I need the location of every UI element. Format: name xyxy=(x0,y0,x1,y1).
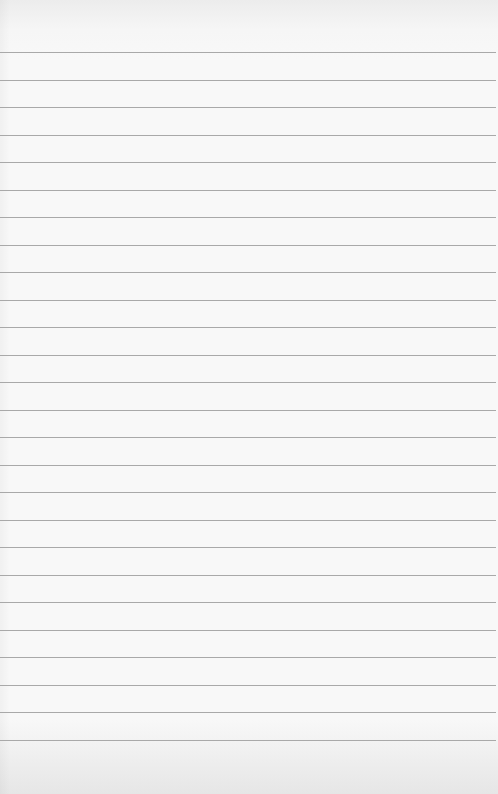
ruled-line xyxy=(0,602,496,603)
ruled-line xyxy=(0,355,496,356)
ruled-line xyxy=(0,300,496,301)
ruled-line xyxy=(0,107,496,108)
ruled-line xyxy=(0,52,496,53)
ruled-line xyxy=(0,492,496,493)
ruled-line xyxy=(0,162,496,163)
ruled-line xyxy=(0,217,496,218)
ruled-line xyxy=(0,437,496,438)
lined-paper-sheet xyxy=(0,0,498,794)
ruled-line xyxy=(0,382,496,383)
ruled-line xyxy=(0,740,496,741)
ruled-line xyxy=(0,327,496,328)
ruled-line xyxy=(0,520,496,521)
ruled-line xyxy=(0,80,496,81)
ruled-line xyxy=(0,630,496,631)
ruled-line xyxy=(0,135,496,136)
ruled-line xyxy=(0,465,496,466)
ruled-line xyxy=(0,547,496,548)
ruled-line xyxy=(0,410,496,411)
ruled-line xyxy=(0,575,496,576)
ruled-line xyxy=(0,712,496,713)
ruled-line xyxy=(0,190,496,191)
ruled-line xyxy=(0,657,496,658)
ruled-line xyxy=(0,245,496,246)
ruled-line xyxy=(0,685,496,686)
ruled-line xyxy=(0,272,496,273)
